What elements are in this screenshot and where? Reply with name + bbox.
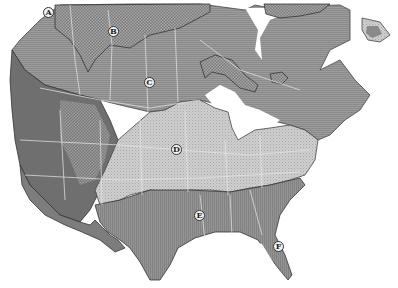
map-marker-f: F — [273, 241, 284, 252]
map-marker-b: B — [108, 26, 119, 37]
map-marker-d: D — [171, 144, 182, 155]
map-marker-a: A — [43, 7, 54, 18]
map-marker-c: C — [144, 77, 155, 88]
map-marker-e: E — [194, 210, 205, 221]
north-america-map — [0, 0, 398, 288]
